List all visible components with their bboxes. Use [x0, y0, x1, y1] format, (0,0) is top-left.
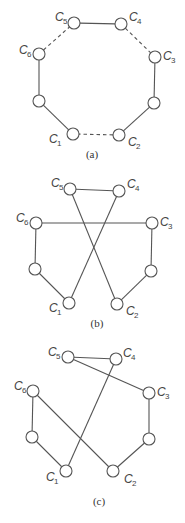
node-subscript-c3: 3 [171, 56, 176, 65]
edge-c6-c5 [43, 27, 69, 50]
figure-canvas: C1C2C3C4C5C6(a) C1C2C3C4C5C6(b) C1C2C3C4… [0, 0, 185, 523]
node-c6 [33, 48, 45, 60]
node-c1 [67, 128, 79, 140]
node-unlabeled [148, 97, 160, 109]
node-subscript-c4: 4 [135, 184, 140, 193]
node-subscript-c6: 6 [27, 50, 32, 59]
node-subscript-c2: 2 [134, 311, 139, 320]
panel-a: C1C2C3C4C5C6(a) [19, 10, 176, 161]
edge-c2-r [121, 275, 146, 300]
node-subscript-c2: 2 [136, 142, 141, 151]
node-c3 [143, 387, 155, 399]
node-c1 [60, 465, 72, 477]
node-subscript-c3: 3 [165, 392, 170, 401]
node-c3 [149, 51, 161, 63]
node-subscript-c4: 4 [137, 17, 142, 26]
edge-c5-c2 [72, 195, 114, 299]
node-c1 [63, 297, 75, 309]
edge-r-c2 [117, 443, 144, 467]
edge-l-c1 [36, 441, 62, 467]
node-unlabeled [143, 433, 155, 445]
edge-c4-c3 [125, 28, 150, 53]
node-c6 [30, 217, 42, 229]
node-c2 [107, 465, 119, 477]
node-c4 [110, 353, 122, 365]
node-c4 [115, 18, 127, 30]
edge-c5-c4 [76, 189, 113, 191]
edge-c1-c4 [68, 364, 113, 465]
node-subscript-c6: 6 [22, 386, 27, 395]
edge-c3-r [154, 63, 155, 97]
edge-c1-l [43, 105, 68, 130]
edge-c5-c4 [74, 357, 110, 359]
node-subscript-c6: 6 [24, 218, 29, 227]
edge-l-c1 [39, 273, 65, 299]
node-subscript-c4: 4 [131, 353, 136, 362]
node-c6 [27, 385, 39, 397]
panel-caption: (b) [91, 317, 104, 330]
node-unlabeled [26, 431, 38, 443]
node-unlabeled [29, 263, 41, 275]
node-c2 [113, 129, 125, 141]
node-c5 [68, 17, 80, 29]
node-c5 [62, 351, 74, 363]
edge-c5-c4 [80, 23, 115, 24]
panel-b: C1C2C3C4C5C6(b) [16, 176, 173, 330]
node-subscript-c5: 5 [59, 183, 64, 192]
node-subscript-c1: 1 [57, 139, 62, 148]
node-subscript-c5: 5 [63, 17, 68, 26]
node-subscript-c2: 2 [132, 479, 137, 488]
node-subscript-c3: 3 [168, 222, 173, 231]
edge-c6-l [35, 229, 36, 263]
node-c4 [113, 185, 125, 197]
node-unlabeled [33, 95, 45, 107]
node-subscript-c5: 5 [56, 352, 61, 361]
node-subscript-c1: 1 [54, 477, 59, 486]
panel-caption: (c) [93, 495, 106, 508]
node-unlabeled [145, 265, 157, 277]
edge-c2-c1 [79, 134, 113, 135]
node-c3 [146, 217, 158, 229]
edge-c6-l [32, 397, 33, 431]
node-c5 [64, 183, 76, 195]
edge-r-c3 [151, 229, 152, 265]
node-c2 [111, 298, 123, 310]
edge-r-c2 [123, 107, 149, 131]
panel-c: C1C2C3C4C5C6(c) [14, 345, 170, 508]
panel-caption: (a) [86, 148, 99, 161]
node-subscript-c1: 1 [57, 308, 62, 317]
